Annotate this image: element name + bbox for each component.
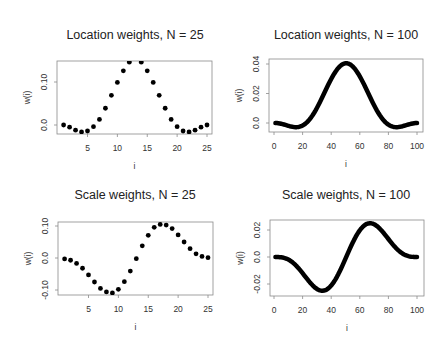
data-point: [151, 80, 156, 85]
data-series: [275, 223, 417, 291]
data-series: [61, 56, 209, 134]
x-tick-label: 25: [203, 304, 213, 314]
y-axis-label: w(i): [235, 251, 245, 266]
data-point: [157, 93, 162, 98]
x-axis-label: i: [135, 322, 137, 332]
panel-location-weights-n25: Location weights, N = 25 510152025i0.00.…: [22, 28, 212, 171]
x-tick-label: 15: [144, 304, 154, 314]
data-point: [128, 269, 133, 274]
y-tick-label: 0.0: [251, 117, 261, 129]
data-points-dense: [275, 63, 417, 127]
data-point: [146, 233, 151, 238]
y-tick-label: 0.10: [39, 73, 49, 90]
data-point: [175, 124, 180, 129]
data-point: [97, 117, 102, 122]
x-tick-label: 10: [114, 304, 124, 314]
x-tick-label: 5: [86, 304, 91, 314]
panel-title: Location weights, N = 25: [66, 28, 203, 42]
data-points-dense: [275, 223, 417, 291]
data-point: [169, 117, 174, 122]
data-point: [86, 273, 91, 278]
data-point: [164, 223, 169, 228]
x-tick-label: 20: [172, 143, 182, 153]
x-tick-label: 40: [326, 141, 336, 151]
x-tick-label: 20: [298, 305, 308, 315]
x-tick-label: 100: [410, 141, 424, 151]
data-point: [74, 261, 79, 266]
x-tick-label: 80: [384, 141, 394, 151]
y-tick-label: 0.0: [252, 251, 262, 263]
x-tick-label: 20: [298, 141, 308, 151]
data-point: [67, 125, 72, 130]
y-tick-label: 0.04: [251, 55, 261, 72]
x-axis-label: i: [345, 159, 347, 169]
x-tick-label: 15: [143, 143, 153, 153]
panel-title: Location weights, N = 100: [274, 28, 418, 42]
data-point: [68, 258, 73, 263]
plot-area: [269, 59, 423, 132]
y-tick-label: 0.02: [251, 85, 261, 102]
data-point: [116, 287, 121, 292]
x-tick-label: 60: [355, 141, 365, 151]
y-tick-label: -0.10: [40, 280, 50, 300]
data-point: [145, 68, 150, 73]
data-point: [80, 266, 85, 271]
x-tick-label: 20: [173, 304, 183, 314]
y-axis: 0.00.10w(i): [22, 73, 57, 130]
x-tick-label: 80: [384, 305, 394, 315]
data-point: [61, 123, 66, 128]
data-point: [206, 255, 211, 260]
plot-area: [57, 61, 212, 134]
y-axis-label: w(i): [22, 90, 32, 105]
data-point: [182, 240, 187, 245]
data-point: [92, 280, 97, 285]
data-point: [193, 128, 198, 133]
data-point: [110, 290, 115, 295]
x-axis-label: i: [346, 323, 348, 333]
x-tick-label: 40: [326, 305, 336, 315]
data-point: [73, 128, 78, 133]
data-point: [85, 129, 90, 134]
data-point: [152, 225, 157, 230]
data-point: [176, 233, 181, 238]
x-axis-label: i: [134, 161, 136, 171]
x-tick-label: 0: [272, 305, 277, 315]
x-tick-label: 60: [355, 305, 365, 315]
data-point: [170, 226, 175, 231]
data-series: [62, 222, 210, 295]
figure-2x2-weights: Location weights, N = 25 510152025i0.00.…: [0, 0, 446, 342]
data-point: [122, 279, 127, 284]
data-point: [200, 254, 205, 259]
x-tick-label: 10: [113, 143, 123, 153]
data-point: [104, 290, 109, 295]
y-axis-label: w(i): [23, 251, 33, 266]
data-point: [109, 93, 114, 98]
panel-scale-weights-n25: Scale weights, N = 25 510152025i-0.100.0…: [23, 188, 213, 332]
y-tick-label: 0.0: [39, 119, 49, 131]
x-tick-label: 0: [272, 141, 277, 151]
data-point: [139, 60, 144, 65]
data-point: [187, 129, 192, 134]
data-point: [62, 257, 67, 262]
data-point: [79, 129, 84, 134]
data-point: [194, 251, 199, 256]
panel-location-weights-n100: Location weights, N = 100 020406080100i0…: [234, 28, 424, 169]
panel-title: Scale weights, N = 25: [74, 188, 195, 202]
panel-scale-weights-n100: Scale weights, N = 100 020406080100i-0.0…: [235, 188, 424, 333]
data-point: [103, 106, 108, 111]
data-point: [127, 60, 132, 65]
data-point: [115, 80, 120, 85]
x-tick-label: 5: [85, 143, 90, 153]
x-axis: 020406080100i: [272, 296, 425, 333]
data-point: [133, 56, 138, 61]
y-axis: 0.00.020.04w(i): [234, 55, 269, 128]
y-tick-label: -0.02: [252, 274, 262, 294]
data-point: [91, 124, 96, 129]
x-axis: 510152025i: [86, 295, 213, 332]
data-point: [121, 68, 126, 73]
y-tick-label: 0.02: [252, 221, 262, 238]
data-point: [199, 125, 204, 130]
y-tick-label: 0.10: [40, 217, 50, 234]
panel-title: Scale weights, N = 100: [282, 188, 410, 202]
data-point: [158, 222, 163, 227]
